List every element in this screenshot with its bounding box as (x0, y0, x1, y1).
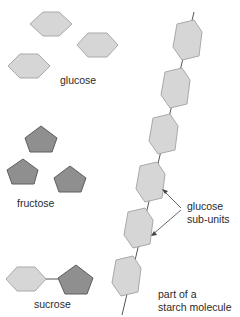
starch-chain (112, 12, 202, 315)
starch-glucose-unit-5 (124, 208, 153, 248)
glucose-subunits-label-line1: glucose (187, 200, 223, 213)
starch-glucose-unit-4 (136, 162, 165, 202)
glucose-hexagon-2 (77, 33, 118, 57)
fructose-pentagon-2 (7, 159, 38, 184)
sucrose-fructose-pentagon (58, 265, 93, 294)
sucrose-glucose-hexagon (6, 267, 46, 291)
glucose-subunits-label-line2: sub-units (187, 213, 230, 226)
starch-label-line2: starch molecule (158, 301, 232, 314)
starch-label-line1: part of a (158, 288, 197, 301)
starch-glucose-unit-1 (173, 20, 202, 60)
sucrose-label: sucrose (34, 298, 71, 311)
fructose-pentagon-3 (54, 166, 86, 192)
glucose-label: glucose (60, 74, 96, 87)
arrow-to-unit-4 (164, 191, 181, 208)
arrow-to-unit-5 (152, 210, 181, 235)
sucrose-molecule (6, 265, 93, 294)
starch-glucose-unit-2 (161, 68, 190, 108)
starch-glucose-unit-3 (149, 114, 178, 154)
glucose-group (8, 12, 118, 78)
carbohydrate-diagram (0, 0, 240, 317)
fructose-group (7, 126, 86, 192)
fructose-pentagon-1 (25, 126, 57, 152)
starch-glucose-unit-6 (112, 256, 141, 296)
glucose-hexagon-3 (8, 54, 50, 78)
fructose-label: fructose (17, 197, 54, 210)
glucose-hexagon-1 (30, 12, 72, 36)
